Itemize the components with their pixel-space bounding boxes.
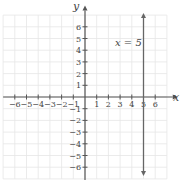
y-tick-label: 3 <box>76 58 81 67</box>
y-tick-label: −5 <box>69 152 81 161</box>
y-tick-label: 5 <box>76 35 81 44</box>
x-tick-label: −3 <box>44 100 56 109</box>
x-tick-label: 1 <box>94 100 99 109</box>
y-tick-label: 4 <box>76 46 81 55</box>
x-tick-label: 2 <box>106 100 111 109</box>
axes <box>3 5 178 180</box>
equation-label: x = 5 <box>115 37 142 48</box>
x-tick-label: 6 <box>153 100 158 109</box>
y-tick-label: −4 <box>69 140 81 149</box>
y-tick-label: 2 <box>76 70 81 79</box>
y-tick-label: −1 <box>69 105 81 114</box>
y-tick-label: −6 <box>69 163 81 172</box>
coordinate-plane: −6−5−4−3−2−1123456654321−1−2−3−4−5−6 x y… <box>0 0 182 183</box>
x-tick-label: −2 <box>56 100 68 109</box>
y-tick-label: −3 <box>69 128 81 137</box>
y-axis-label: y <box>72 0 80 13</box>
y-tick-label: 1 <box>76 81 81 90</box>
x-axis-label: x <box>173 91 180 104</box>
x-tick-label: −6 <box>9 100 21 109</box>
x-tick-label: 3 <box>118 100 123 109</box>
x-tick-label: −4 <box>32 100 44 109</box>
y-tick-label: 6 <box>76 23 81 32</box>
line-x-equals-5 <box>141 13 146 176</box>
x-tick-label: −5 <box>21 100 33 109</box>
y-tick-label: −2 <box>69 116 81 125</box>
line-arrow-down-icon <box>141 171 146 176</box>
x-tick-label: 4 <box>129 100 134 109</box>
y-axis-arrow-icon <box>83 5 88 10</box>
